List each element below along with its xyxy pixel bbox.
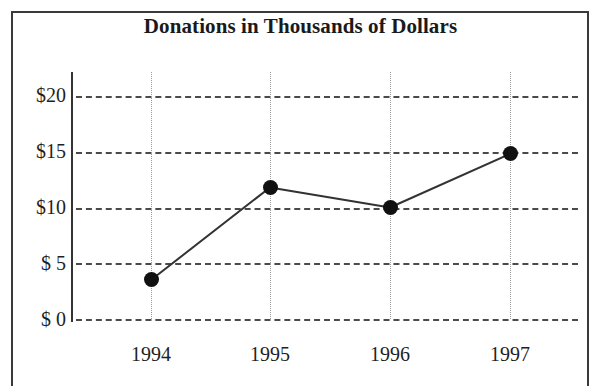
x-tick-label-1996: 1996 <box>350 343 430 366</box>
chart-title: Donations in Thousands of Dollars <box>0 14 601 39</box>
data-point-1996 <box>383 200 398 215</box>
data-point-1994 <box>144 272 159 287</box>
gridline-x-1996 <box>390 72 391 319</box>
y-tick-label-10: $10 <box>14 196 66 219</box>
x-tick-label-1997: 1997 <box>470 343 550 366</box>
y-tick-label-15: $15 <box>14 140 66 163</box>
x-tick-label-1994: 1994 <box>111 343 191 366</box>
gridline-x-1995 <box>270 72 271 319</box>
y-tick-label-5: $ 5 <box>14 252 66 275</box>
gridline-y-0 <box>76 319 578 321</box>
y-tick-label-20: $20 <box>14 84 66 107</box>
gridline-x-1997 <box>510 72 511 319</box>
chart-figure: Donations in Thousands of Dollars $20 $1… <box>0 0 601 386</box>
data-point-1997 <box>503 146 518 161</box>
x-tick-label-1995: 1995 <box>230 343 310 366</box>
y-axis-line <box>71 72 73 322</box>
data-point-1995 <box>263 180 278 195</box>
y-tick-label-0: $ 0 <box>14 308 66 331</box>
